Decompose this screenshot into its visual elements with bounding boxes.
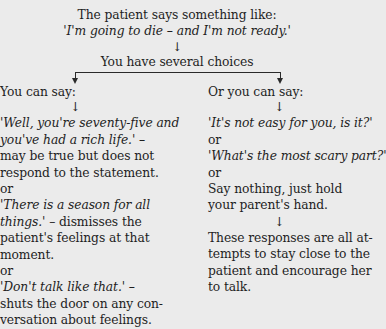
left-line: 'Don't talk like that.' – [0, 279, 175, 295]
left-column: You can say: ↓ 'Well, you're seventy-fiv… [0, 84, 175, 329]
left-line: patient's feelings at that [0, 230, 175, 246]
arrow-down-icon: ↓ [0, 41, 354, 53]
left-heading: You can say: [0, 84, 175, 100]
left-line: you've had a rich life.' – [0, 132, 175, 148]
right-line: Say nothing, just hold [208, 181, 354, 197]
left-line: shuts the door on any con- [0, 296, 175, 312]
right-line: or [208, 165, 354, 181]
choices-heading: You have several choices [0, 54, 354, 70]
conclusion-line: patient and encourage her [208, 263, 354, 279]
left-line: things.' – dismisses the [0, 214, 175, 230]
left-line: respond to the statement. [0, 165, 175, 181]
comment-fragment: – dismisses the [45, 215, 141, 229]
arrow-down-icon: ↓ [0, 100, 175, 115]
right-heading: Or you can say: [208, 84, 354, 100]
arrow-down-icon: ↓ [208, 100, 354, 115]
patient-quote: 'I'm going to die – and I'm not ready.' [0, 23, 354, 39]
left-line: 'There is a season for all [0, 197, 175, 213]
right-line: or [208, 132, 354, 148]
arrow-down-icon: ↓ [208, 214, 354, 230]
right-column: Or you can say: ↓ 'It's not easy for you… [208, 84, 354, 295]
conclusion-line: tempts to stay close to the [208, 246, 354, 262]
right-line: 'What's the most scary part?' [208, 148, 354, 164]
branch-line [75, 72, 280, 73]
intro-text: The patient says something like: [0, 7, 354, 23]
left-line: versation about feelings. [0, 312, 175, 328]
left-line: 'Well, you're seventy-five and [0, 115, 175, 131]
left-line: moment. [0, 247, 175, 263]
conclusion-line: These responses are all at- [208, 230, 354, 246]
right-line: 'It's not easy for you, is it?' [208, 115, 354, 131]
left-line: or [0, 263, 175, 279]
conclusion-line: to talk. [208, 279, 354, 295]
left-line: or [0, 181, 175, 197]
quote-fragment: things.' [0, 215, 45, 229]
left-line: may be true but does not [0, 148, 175, 164]
right-line: your parent's hand. [208, 197, 354, 213]
